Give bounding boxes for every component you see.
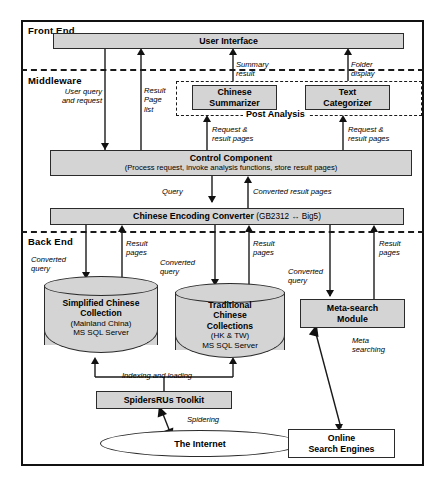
encoding-converter-title: Chinese Encoding Converter: [133, 211, 254, 221]
flow-label-indexing-and-loading: Indexing and loading: [122, 371, 192, 380]
text-categorizer-line2: Categorizer: [323, 98, 371, 108]
flow-label-converted-query-3: Converted query: [288, 267, 323, 286]
chinese-summarizer-line2: Summarizer: [209, 98, 259, 108]
arrowhead-converted-query-3-down: [326, 290, 334, 297]
user-interface-label: User Interface: [199, 36, 258, 46]
post-analysis-caption: Post Analysis: [243, 109, 308, 119]
simplified-collection-line3: (Mainland China): [44, 319, 158, 329]
node-user-interface[interactable]: User Interface: [53, 33, 404, 49]
flow-label-result-pages-1: Result pages: [126, 239, 148, 258]
flow-label-user-query: User query and request: [48, 87, 102, 106]
arrowhead-result-pages-3-up: [370, 225, 378, 232]
arrowhead-result-pages-2-up: [245, 225, 253, 232]
flow-label-converted-result-pages: Converted result pages: [253, 187, 332, 196]
flow-label-request-result-pages-left: Request & result pages: [212, 125, 253, 144]
simplified-collection-line4: MS SQL Server: [44, 328, 158, 338]
node-the-internet[interactable]: The Internet: [100, 430, 300, 457]
node-chinese-summarizer[interactable]: Chinese Summarizer: [192, 85, 277, 110]
traditional-collection-line4: (HK & TW): [175, 331, 285, 341]
architecture-diagram: Front End Middleware Back End: [0, 0, 439, 486]
spidersrus-toolkit-label: SpidersRUs Toolkit: [124, 395, 205, 405]
node-encoding-converter[interactable]: Chinese Encoding Converter (GB2312 ↔ Big…: [50, 208, 404, 225]
chinese-summarizer-line1: Chinese: [217, 87, 251, 97]
node-traditional-chinese-collections[interactable]: Traditional Chinese Collections (HK & TW…: [175, 283, 285, 359]
flow-label-converted-query-2: Converted query: [160, 258, 195, 277]
text-categorizer-line1: Text: [339, 87, 356, 97]
flow-label-query: Query: [162, 187, 183, 196]
flow-label-folder-display: Folder display: [351, 60, 375, 79]
arrowhead-query-down: [208, 196, 216, 203]
divider-middleware-backend: [21, 231, 424, 233]
encoding-converter-suffix: (GB2312 ↔ Big5): [256, 212, 321, 221]
tier-label-middleware: Middleware: [28, 75, 82, 86]
online-search-engines-line1: Online: [328, 433, 355, 444]
node-simplified-chinese-collection[interactable]: Simplified Chinese Collection (Mainland …: [44, 276, 158, 354]
control-component-subtitle: (Process request, invoke analysis functi…: [125, 164, 338, 173]
arrowhead-request-results-right-up: [339, 115, 347, 122]
arrowhead-summary-result-up: [229, 48, 237, 55]
traditional-collection-line3: Collections: [175, 321, 285, 331]
online-search-engines-line2: Search Engines: [308, 444, 374, 455]
flow-label-result-pages-3: Result pages: [379, 239, 401, 258]
arrowhead-request-results-left-up: [203, 115, 211, 122]
tier-label-back-end: Back End: [28, 236, 73, 247]
flow-label-converted-query-1: Converted query: [31, 255, 66, 274]
flow-label-result-pages-2: Result pages: [253, 239, 275, 258]
arrowhead-result-page-list-up: [137, 48, 145, 55]
traditional-collection-line2: Chinese: [175, 310, 285, 320]
simplified-collection-line2: Collection: [44, 308, 158, 318]
arrowhead-folder-display-up: [344, 48, 352, 55]
arrowhead-indexing-simplified-up: [91, 357, 99, 364]
arrowhead-converted-result-pages-up: [244, 176, 252, 183]
node-control-component[interactable]: Control Component (Process request, invo…: [50, 150, 412, 176]
flow-label-meta-searching: Meta searching: [352, 336, 385, 355]
flow-label-result-page-list: Result Page list: [144, 86, 166, 114]
traditional-collection-line1: Traditional: [175, 300, 285, 310]
meta-search-line2: Module: [337, 314, 368, 324]
flow-label-summary-result: Summary result: [236, 60, 269, 79]
traditional-collection-line5: MS SQL Server: [175, 341, 285, 351]
node-spidersrus-toolkit[interactable]: SpidersRUs Toolkit: [96, 391, 232, 409]
node-meta-search-module[interactable]: Meta-search Module: [300, 299, 405, 328]
simplified-collection-line1: Simplified Chinese: [44, 298, 158, 308]
meta-search-line1: Meta-search: [327, 303, 378, 313]
arrowhead-result-pages-1-up: [118, 225, 126, 232]
flow-label-spidering: Spidering: [187, 415, 219, 424]
arrowhead-user-query-down: [101, 143, 109, 150]
the-internet-label: The Internet: [174, 439, 226, 449]
node-online-search-engines[interactable]: Online Search Engines: [288, 429, 395, 458]
node-text-categorizer[interactable]: Text Categorizer: [305, 85, 390, 110]
flow-label-request-result-pages-right: Request & result pages: [348, 125, 389, 144]
